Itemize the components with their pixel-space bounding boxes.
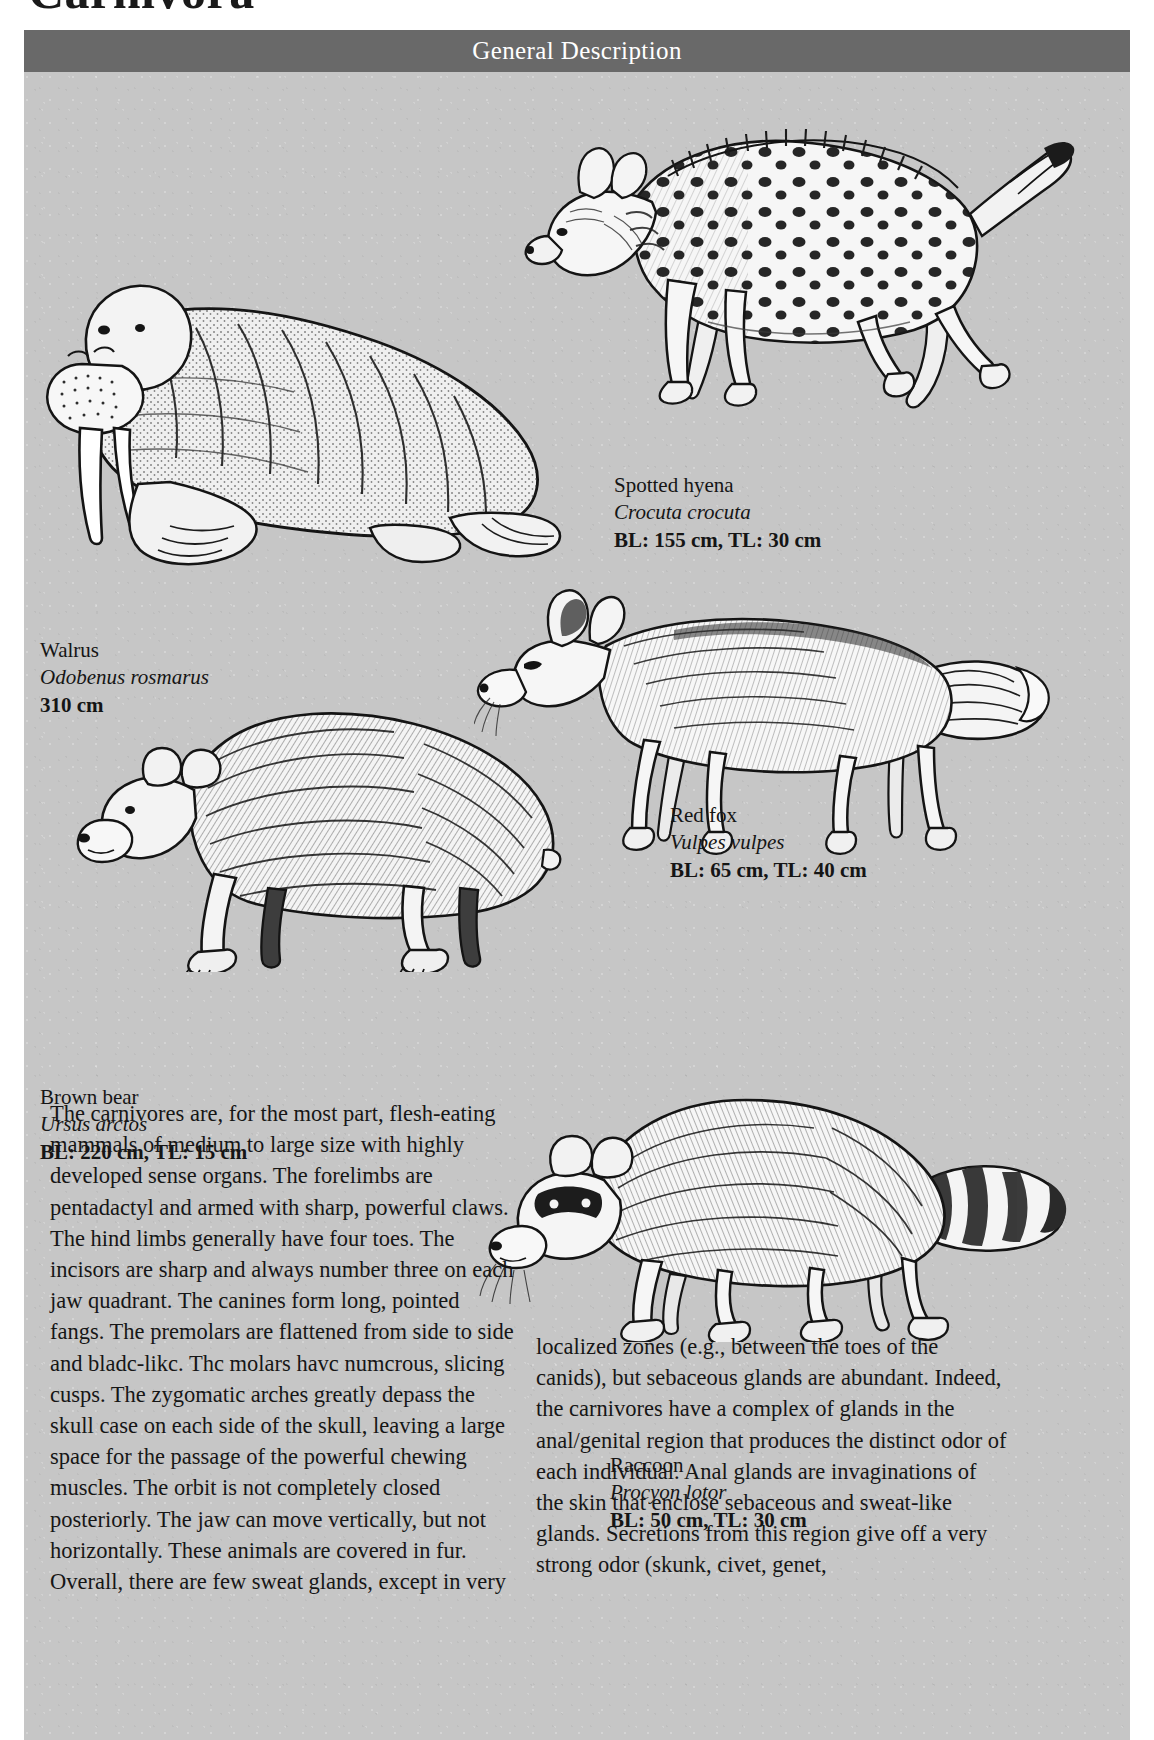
red-fox-common-name: Red fox [670,802,867,829]
raccoon-illustration [434,1012,1074,1342]
walrus-illustration [30,232,590,572]
red-fox-latin-name: Vulpes vulpes [670,829,867,856]
brown-bear-illustration [74,642,634,972]
body-paragraph-left: The carnivores are, for the most part, f… [50,1098,516,1597]
section-header-band: General Description [24,30,1130,72]
red-fox-measurements: BL: 65 cm, TL: 40 cm [670,857,867,884]
red-fox-caption: Red fox Vulpes vulpes BL: 65 cm, TL: 40 … [670,802,867,884]
illustration-plate: Spotted hyena Crocuta crocuta BL: 155 cm… [24,72,1130,1740]
body-text-column-right: localized zones (e.g., between the toes … [536,1331,1008,1581]
spotted-hyena-illustration [518,84,1078,414]
body-paragraph-right: localized zones (e.g., between the toes … [536,1331,1008,1581]
section-header-title: General Description [472,37,682,65]
page-title: Carnivora [28,0,255,16]
body-text-column-left: The carnivores are, for the most part, f… [50,1098,516,1597]
spotted-hyena-common-name: Spotted hyena [614,472,821,499]
